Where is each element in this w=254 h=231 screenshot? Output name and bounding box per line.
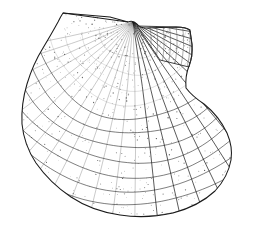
stipple-dot xyxy=(140,48,141,49)
stipple-dot xyxy=(138,163,139,164)
stipple-dot xyxy=(175,79,176,80)
stipple-dot xyxy=(117,36,118,37)
stipple-dot xyxy=(104,86,105,87)
stipple-dot xyxy=(113,32,114,33)
stipple-dot xyxy=(60,150,61,151)
stipple-dot xyxy=(45,111,46,112)
stipple-dot xyxy=(101,34,102,35)
stipple-dot xyxy=(142,129,143,130)
stipple-dot xyxy=(86,96,87,97)
stipple-dot xyxy=(147,138,148,139)
stipple-dot xyxy=(123,106,124,107)
stipple-dot xyxy=(54,52,55,53)
stipple-dot xyxy=(146,78,147,79)
stipple-dot xyxy=(76,16,77,17)
stipple-dot xyxy=(48,172,49,173)
stipple-dot xyxy=(164,86,165,87)
stipple-dot xyxy=(128,31,129,32)
stipple-dot xyxy=(143,195,144,196)
stipple-dot xyxy=(147,108,148,109)
stipple-dot xyxy=(85,23,86,24)
stipple-dot xyxy=(131,187,132,188)
stipple-dot xyxy=(37,125,38,126)
stipple-dot xyxy=(117,48,118,49)
stipple-dot xyxy=(112,188,113,189)
stipple-dot xyxy=(167,87,168,88)
stipple-dot xyxy=(160,205,161,206)
stipple-dot xyxy=(103,28,104,29)
stipple-dot xyxy=(96,64,97,65)
stipple-dot xyxy=(71,135,72,136)
stipple-dot xyxy=(116,204,117,205)
stipple-dot xyxy=(30,149,31,150)
stipple-dot xyxy=(140,189,141,190)
stipple-dot xyxy=(112,21,113,22)
stipple-dot xyxy=(173,59,174,60)
stipple-dot xyxy=(145,192,146,193)
stipple-dot xyxy=(139,57,140,58)
stipple-dot xyxy=(64,116,65,117)
stipple-dot xyxy=(200,133,201,134)
stipple-dot xyxy=(146,178,147,179)
stipple-dot xyxy=(44,144,45,145)
stipple-dot xyxy=(117,83,118,84)
stipple-dot xyxy=(149,59,150,60)
stipple-dot xyxy=(198,171,199,172)
stipple-dot xyxy=(45,135,46,136)
stipple-dot xyxy=(27,117,28,118)
stipple-dot xyxy=(103,113,104,114)
stipple-dot xyxy=(146,169,147,170)
stipple-dot xyxy=(117,194,118,195)
stipple-dot xyxy=(95,40,96,41)
stipple-dot xyxy=(113,92,114,93)
stipple-dot xyxy=(135,64,136,65)
stipple-dot xyxy=(116,128,117,129)
stipple-dot xyxy=(191,134,192,135)
stipple-dot xyxy=(166,97,167,98)
stipple-dot xyxy=(58,139,59,140)
stipple-dot xyxy=(225,171,226,172)
stipple-dot xyxy=(144,187,145,188)
stipple-dot xyxy=(130,130,131,131)
stipple-dot xyxy=(79,25,80,26)
stipple-dot xyxy=(174,99,175,100)
stipple-dot xyxy=(160,99,161,100)
stipple-dot xyxy=(116,188,117,189)
stipple-dot xyxy=(114,53,115,54)
stipple-dot xyxy=(49,49,50,50)
stipple-dot xyxy=(70,176,71,177)
stipple-dot xyxy=(58,116,59,117)
stipple-dot xyxy=(163,194,164,195)
stipple-dot xyxy=(69,34,70,35)
stipple-dot xyxy=(97,160,98,161)
stipple-dot xyxy=(124,193,125,194)
stipple-dot xyxy=(46,77,47,78)
stipple-dot xyxy=(108,114,109,115)
stipple-dot xyxy=(196,133,197,134)
stipple-dot xyxy=(99,54,100,55)
stipple-dot xyxy=(134,24,135,25)
stipple-dot xyxy=(44,48,45,49)
stipple-dot xyxy=(85,140,86,141)
stipple-dot xyxy=(81,17,82,18)
stipple-dot xyxy=(187,39,188,40)
stipple-dot xyxy=(112,52,113,53)
stipple-dot xyxy=(78,149,79,150)
stipple-dot xyxy=(74,83,75,84)
stipple-dot xyxy=(148,107,149,108)
stipple-dot xyxy=(73,21,74,22)
stipple-dot xyxy=(162,139,163,140)
stipple-dot xyxy=(168,33,169,34)
stipple-dot xyxy=(114,119,115,120)
stipple-dot xyxy=(134,25,135,26)
stipple-dot xyxy=(122,178,123,179)
stipple-dot xyxy=(123,188,124,189)
stipple-dot xyxy=(90,30,91,31)
stipple-dot xyxy=(90,89,91,90)
stipple-dot xyxy=(112,211,113,212)
stipple-dot xyxy=(104,36,105,37)
stipple-dot xyxy=(184,45,185,46)
stipple-dot xyxy=(109,67,110,68)
stipple-dot xyxy=(143,41,144,42)
stipple-dot xyxy=(112,103,113,104)
